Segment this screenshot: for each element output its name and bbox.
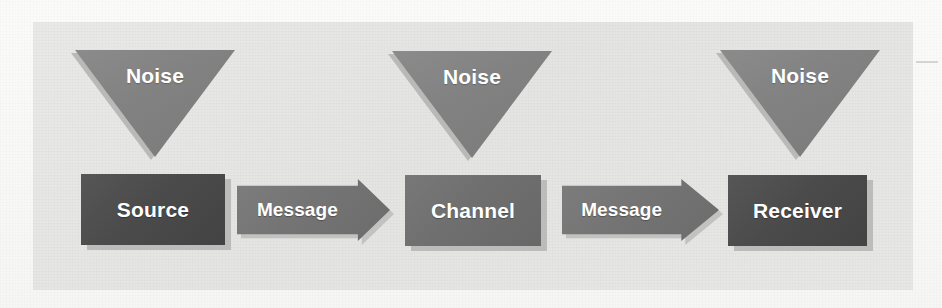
node-channel-body: Channel [405,175,541,246]
connector-message-2[interactable]: Message [562,179,719,241]
node-channel[interactable]: Channel [405,175,541,246]
noise-triangle-1: Noise [75,50,235,157]
noise-triangle-3-label: Noise [720,64,880,88]
noise-triangle-1-label: Noise [75,64,235,88]
node-channel-label: Channel [431,199,515,223]
node-source-label: Source [117,198,189,222]
connector-message-2-label: Message [562,179,681,241]
node-receiver[interactable]: Receiver [728,175,867,246]
noise-triangle-2: Noise [392,51,552,158]
diagram-panel: Noise Noise Noise Source Message C [33,22,913,290]
node-source[interactable]: Source [81,174,225,245]
node-receiver-body: Receiver [728,175,867,246]
node-source-body: Source [81,174,225,245]
connector-message-1[interactable]: Message [237,179,390,241]
noise-triangle-2-label: Noise [392,65,552,89]
noise-triangle-3: Noise [720,50,880,157]
margin-artifact-mark [916,61,938,63]
node-receiver-label: Receiver [753,199,842,223]
connector-message-1-label: Message [237,179,358,241]
